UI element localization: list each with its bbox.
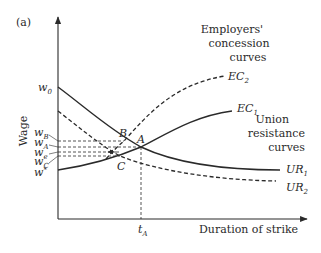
ec2-curve	[106, 76, 225, 159]
y-axis-label: Wage	[17, 116, 30, 146]
ec1-curve	[58, 111, 232, 170]
employers-concession-label: Employers' concession curves	[201, 23, 270, 64]
ur1-curve	[58, 87, 280, 170]
union-resistance-label: Union resistance curves	[248, 113, 306, 154]
strike-bargaining-diagram: (a) Wage Duration of strike Employers' c…	[0, 0, 321, 253]
svg-text:curves: curves	[230, 51, 267, 64]
svg-text:concession: concession	[208, 37, 269, 50]
ur2-label: UR2	[286, 181, 309, 196]
svg-text:resistance: resistance	[248, 127, 305, 140]
svg-text:curves: curves	[268, 141, 305, 154]
panel-label: (a)	[16, 16, 31, 29]
ec2-label: EC2	[227, 70, 249, 85]
point-c-label: C	[117, 160, 126, 173]
ta-label: tA	[138, 223, 147, 238]
ur1-label: UR1	[286, 163, 308, 178]
svg-text:Employers': Employers'	[201, 23, 263, 36]
projection-lines	[58, 141, 141, 219]
point-b-label: B	[118, 127, 127, 140]
svg-text:Union: Union	[255, 113, 289, 126]
ec1-label: EC1	[236, 102, 258, 117]
w0-label: w0	[38, 81, 52, 96]
point-a-label: A	[136, 133, 145, 146]
x-axis-label: Duration of strike	[199, 223, 298, 236]
wstar-label: w*	[34, 166, 47, 179]
ur2-curve	[58, 111, 276, 181]
label-leaders	[49, 135, 58, 163]
